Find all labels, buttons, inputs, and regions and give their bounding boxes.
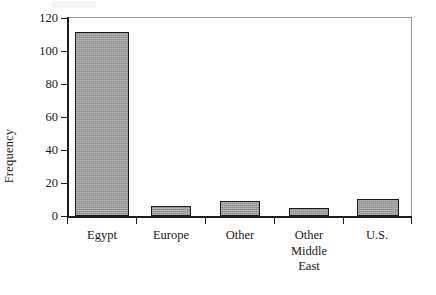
y-tick-label-80: 80 (12, 78, 58, 90)
y-tick-label-100: 100 (12, 45, 58, 57)
y-tick-label-20: 20 (12, 177, 58, 189)
x-tick-mark (343, 217, 344, 224)
x-tick-mark (67, 217, 68, 224)
x-tick-mark (274, 217, 275, 224)
x-tick-mark (205, 217, 206, 224)
bar-chart-figure: Frequency 120 100 80 60 40 20 0 Egypt Eu… (0, 0, 436, 295)
y-tick-label-0: 0 (12, 210, 58, 222)
scan-artifact (52, 1, 96, 8)
x-category-label-us: U.S. (331, 228, 423, 244)
y-tick-mark (61, 117, 69, 118)
x-category-line: East (263, 259, 355, 275)
x-axis-line (67, 216, 412, 218)
bar-other (220, 201, 260, 216)
y-tick-mark (61, 51, 69, 52)
y-tick-mark (61, 18, 69, 19)
y-tick-mark (61, 150, 69, 151)
x-tick-mark (411, 217, 412, 224)
y-tick-label-40: 40 (12, 144, 58, 156)
bar-other-middle-east (289, 208, 329, 216)
y-tick-mark (61, 183, 69, 184)
x-category-line: U.S. (331, 228, 423, 244)
bar-us (357, 199, 399, 216)
y-tick-label-120: 120 (12, 12, 58, 24)
x-category-line: Middle (263, 244, 355, 260)
y-tick-label-60: 60 (12, 111, 58, 123)
x-tick-mark (136, 217, 137, 224)
bar-europe (151, 206, 191, 216)
y-tick-mark (61, 84, 69, 85)
bar-egypt (75, 32, 129, 216)
